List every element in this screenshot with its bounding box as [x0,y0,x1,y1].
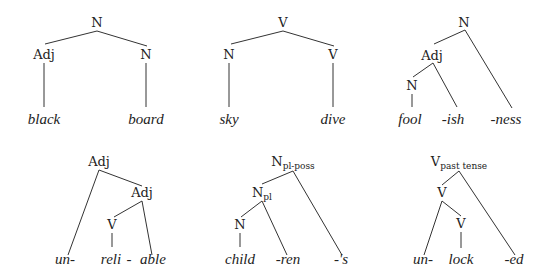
edge [434,30,465,44]
edge [142,201,152,255]
node-low: V [106,217,117,232]
edge [442,171,459,185]
edge [433,63,457,107]
leaf-morpheme: board [128,111,164,127]
leaf-morpheme: un- [413,251,433,267]
morphology-tree-diagrams: N Adj N black board V N V sky dive N Adj… [0,0,549,271]
tree-sky-dive: V N V sky dive [219,15,345,127]
node-left: Adj [32,47,55,62]
node-root: Vpast tense [430,154,487,171]
edge [465,30,512,108]
leaf-hyphen: - [127,251,132,267]
node-right: N [140,47,151,62]
edge [424,201,442,255]
edge [413,63,433,77]
edge [283,31,334,46]
leaf-morpheme: able [140,251,166,267]
leaf-morpheme: child [225,251,255,267]
leaf-morpheme: -ness [491,111,522,127]
node-root: Adj [87,154,110,169]
tree-black-board: N Adj N black board [28,15,164,127]
leaf-morpheme: fool [398,111,421,127]
tree-childrens: Npl-poss Npl N child -ren -'s [225,154,348,267]
edge [459,171,515,255]
node-mid: V [436,185,447,200]
leaf-morpheme: -ish [442,111,465,127]
node-mid: Npl [252,185,272,202]
leaf-morpheme: -'s [334,251,348,267]
node-low: V [455,216,466,231]
node-root: N [91,15,102,30]
node-root-subscript: past tense [440,161,487,171]
node-mid-subscript: pl [263,192,272,202]
edge [241,201,262,217]
node-mid: Adj [420,48,443,63]
leaf-morpheme: reli [101,251,121,267]
leaf-morpheme: un- [55,251,75,267]
leaf-morpheme: sky [219,111,238,127]
edge [45,31,97,44]
tree-unreliable: Adj Adj V un- reli - able [55,154,166,267]
tree-unlocked: Vpast tense V V un- lock -ed [413,154,524,267]
leaf-morpheme: black [28,111,61,127]
node-root: N [458,15,469,30]
leaf-morpheme: -ren [276,251,300,267]
node-root: Npl-poss [271,154,315,171]
edge [114,201,142,217]
edge [231,31,283,44]
node-root-subscript: pl-poss [283,161,315,171]
node-root-label: V [430,154,441,169]
edge [293,171,342,255]
node-low: N [406,78,417,93]
edge [97,31,147,46]
node-left: N [223,47,234,62]
node-root-label: N [271,154,282,169]
node-mid: Adj [130,185,153,200]
node-mid-label: N [252,185,263,200]
edge [262,171,293,184]
edge [262,201,287,255]
node-low: N [234,217,245,232]
node-right: V [327,47,338,62]
node-root: V [277,15,288,30]
edge [99,170,142,186]
edge [68,170,99,255]
leaf-morpheme: dive [321,111,346,127]
leaf-morpheme: -ed [504,251,524,267]
tree-foolishness: N Adj N fool -ish -ness [398,15,521,127]
leaf-morpheme: lock [449,251,474,267]
edge [442,201,461,216]
